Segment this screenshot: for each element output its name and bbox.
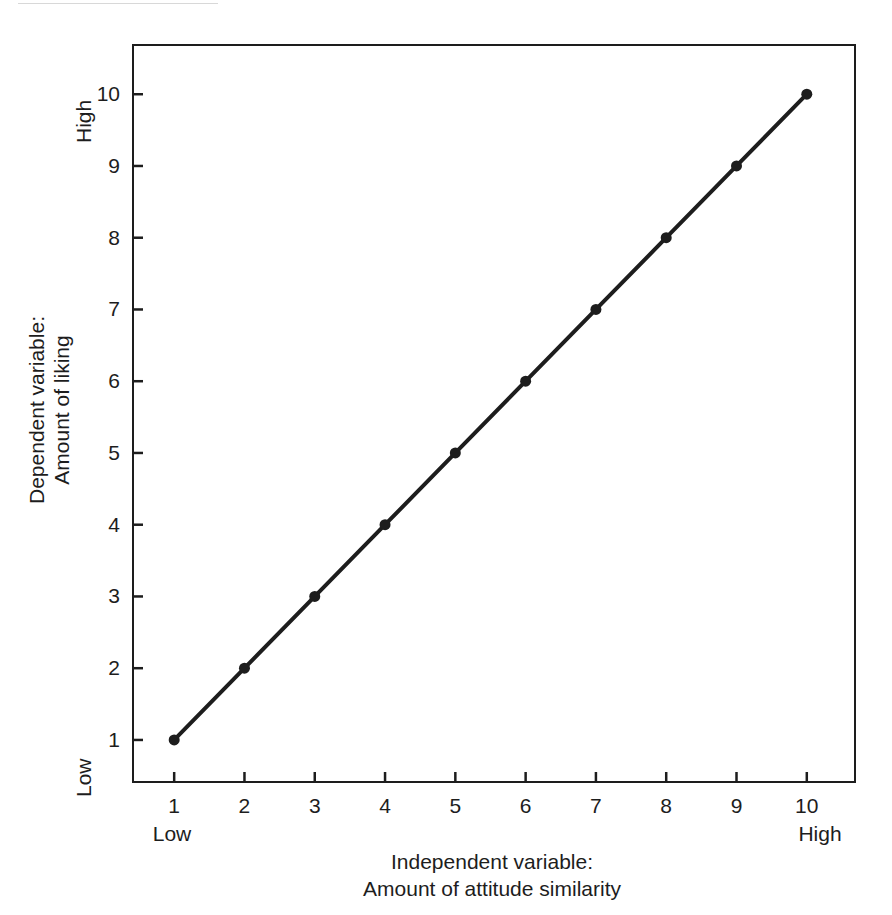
y-axis-title: Dependent variable: Amount of liking [24,316,74,504]
x-tick-label: 4 [365,795,405,816]
x-axis-title-line1: Independent variable: [232,848,752,875]
x-tick-label: 8 [646,795,686,816]
y-tick-label: 6 [80,370,120,391]
x-axis-title-line2: Amount of attitude similarity [232,875,752,902]
plot-frame [132,44,856,783]
x-tick-label: 3 [295,795,335,816]
y-tick-label: 4 [80,514,120,535]
y-axis-low-label: Low [73,758,94,797]
y-axis-high-label: High [73,100,94,143]
x-tick-label: 1 [154,795,194,816]
y-tick-label: 7 [80,298,120,319]
y-tick-label: 3 [80,585,120,606]
figure-canvas: 12345678910 12345678910 High Low Low Hig… [0,0,892,915]
x-tick-label: 9 [717,795,757,816]
x-axis-title: Independent variable: Amount of attitude… [232,848,752,902]
x-tick-label: 2 [224,795,264,816]
x-tick-label: 6 [506,795,546,816]
x-tick-label: 5 [435,795,475,816]
x-tick-label: 7 [576,795,616,816]
y-tick-label: 8 [80,227,120,248]
x-axis-low-label: Low [132,823,212,844]
y-tick-label: 2 [80,657,120,678]
y-tick-label: 5 [80,442,120,463]
x-tick-label: 10 [787,795,827,816]
scan-artifact-line [18,3,218,4]
y-axis-title-line1: Dependent variable: [24,316,49,504]
x-axis-high-label: High [780,823,860,844]
y-axis-title-line2: Amount of liking [49,316,74,504]
y-tick-label: 9 [80,155,120,176]
y-tick-label: 1 [80,729,120,750]
